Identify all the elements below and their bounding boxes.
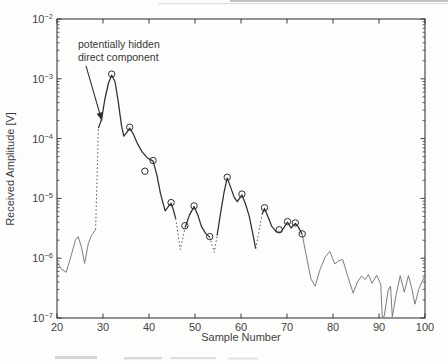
y-tick-label: 10−4 [32,132,53,145]
peak-circle-marker [142,168,148,174]
amplitude-curve-dotted-segment [210,236,217,253]
amplitude-curve-main-segment [98,75,175,218]
cropped-caption-smudge [55,356,258,360]
x-tick-label: 80 [327,321,339,333]
amplitude-curve-dotted-segment [176,219,186,250]
peak-circle-marker [191,203,197,209]
annotation-line-1: potentially hidden [78,38,160,50]
x-tick-label: 40 [143,321,155,333]
amplitude-curve-main-segment [185,207,209,238]
amplitude-curve-light-segment [57,230,96,273]
amplitude-curve-dotted-segment [96,128,99,230]
y-axis-title: Received Amplitude [V] [4,112,16,226]
peak-circle-marker [127,124,133,130]
x-tick-label: 20 [51,321,63,333]
amplitude-curve-dotted-segment [256,214,263,249]
x-tick-label: 50 [189,321,201,333]
annotation-arrow-line [86,66,102,121]
y-tick-label: 10−3 [32,72,53,85]
x-axis-title: Sample Number [201,331,281,343]
x-tick-label: 90 [373,321,385,333]
y-tick-label: 10−5 [32,191,53,204]
x-tick-label: 70 [281,321,293,333]
annotation-line-2: direct component [78,51,159,63]
amplitude-curve-main-segment [217,178,256,249]
y-tick-label: 10−6 [32,251,53,264]
x-tick-label: 30 [97,321,109,333]
annotation-arrowhead-icon [97,112,103,121]
x-tick-label: 100 [416,321,434,333]
y-tick-label: 10−2 [32,12,53,25]
scan-artifact-top-line [158,3,448,4]
chart-canvas: 203040506070809010010−210−310−410−510−61… [0,0,448,362]
scan-artifact-top-bar [230,0,448,2]
axes-box [57,19,425,318]
amplitude-curve-light-segment [302,234,425,316]
y-tick-label: 10−7 [32,311,53,324]
figure-scan-page: 203040506070809010010−210−310−410−510−61… [0,0,448,362]
